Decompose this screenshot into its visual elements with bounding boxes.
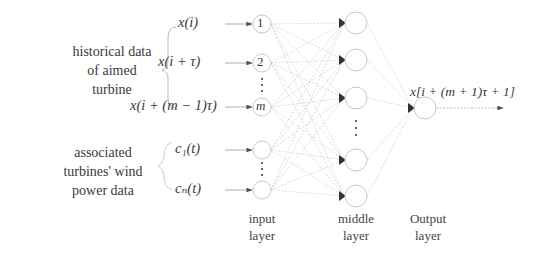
output-layer-label: Output layer	[393, 210, 463, 244]
node-label-2: 2	[257, 54, 264, 70]
input-expr-2: x(i + τ)	[158, 53, 200, 70]
input-arrows	[225, 24, 252, 190]
node-label-1: 1	[257, 15, 264, 31]
brace-associated	[158, 142, 172, 190]
label-line: of aimed	[52, 61, 172, 80]
label-line: input	[227, 210, 297, 227]
label-line: layer	[393, 227, 463, 244]
edges-middle-output	[367, 23, 413, 196]
edges-input-middle	[271, 23, 344, 196]
associated-data-label: associated turbines' wind power data	[46, 143, 160, 200]
input-layer-label: input layer	[227, 210, 297, 244]
middle-arrowheads	[339, 18, 346, 201]
label-line: layer	[321, 227, 391, 244]
label-line: power data	[46, 181, 160, 200]
middle-layer-label: middle layer	[321, 210, 391, 244]
output-expr: x[i + (m + 1)τ + 1]	[410, 84, 515, 100]
input-ellipsis	[261, 78, 263, 176]
label-line: associated	[46, 143, 160, 162]
input-expr-c1: c₁(t)	[175, 140, 200, 157]
middle-nodes	[345, 12, 367, 207]
label-line: turbines' wind	[46, 162, 160, 181]
node-label-m: m	[256, 98, 265, 114]
label-line: historical data	[52, 42, 172, 61]
input-expr-m: x(i + (m − 1)τ)	[130, 97, 217, 114]
input-expr-cn: cₙ(t)	[175, 180, 201, 197]
input-expr-1: x(i)	[178, 14, 198, 31]
label-line: Output	[393, 210, 463, 227]
output-node	[414, 97, 436, 119]
middle-ellipsis	[355, 120, 357, 136]
label-line: layer	[227, 227, 297, 244]
label-line: middle	[321, 210, 391, 227]
historical-data-label: historical data of aimed turbine	[52, 42, 172, 99]
